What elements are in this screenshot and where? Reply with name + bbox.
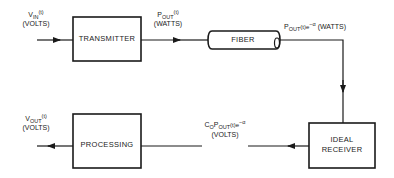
fiber-output-line [280,40,343,88]
receiver-label-line1: IDEAL [309,135,375,145]
tx-output-arg: (t) [174,9,179,15]
output-arg: (t) [42,113,47,119]
input-signal-label: VIN(t) (VOLTS) [14,10,58,28]
fiber-label: FIBER [208,35,278,45]
tx-output-signal-expr: POUT(t) [146,10,190,19]
input-signal-unit: (VOLTS) [14,19,58,28]
fiber-output-exponent: −α [309,21,315,27]
tx-output-signal-label: POUT(t) (WATTS) [146,10,190,28]
receiver-label-line2: RECEIVER [309,145,375,155]
receiver-output-signal-label: COPOUT(t)e−α (VOLTS) [195,120,255,139]
processing-label: PROCESSING [73,140,141,150]
receiver-output-signal-unit: (VOLTS) [195,130,255,139]
fiber-output-signal-label: POUT(t)e−α (WATTS) [284,22,346,32]
receiver-output-exponent: −α [239,119,245,125]
input-arg: (t) [38,9,43,15]
tx-output-signal-unit: (WATTS) [146,19,190,28]
output-signal-unit: (VOLTS) [14,123,58,132]
output-signal-label: VOUT(t) (VOLTS) [14,114,58,132]
fiber-output-unit: (WATTS) [318,23,346,30]
receiver-output-signal-expr: COPOUT(t)e−α [195,120,255,130]
receiver-label: IDEAL RECEIVER [309,135,375,155]
input-signal-expr: VIN(t) [14,10,58,19]
output-signal-expr: VOUT(t) [14,114,58,123]
receiver-output-arg: (t)e [230,122,239,128]
fiber-output-arg: (t)e [300,24,309,30]
fiber-output-subscript: OUT [289,26,301,32]
transmitter-label: TRANSMITTER [73,34,141,44]
